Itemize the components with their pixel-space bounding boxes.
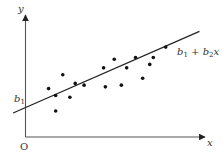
intercept-label-sub: 1 (20, 98, 24, 106)
y-axis-label: y (17, 3, 24, 14)
data-point (125, 66, 129, 70)
data-point (164, 45, 168, 49)
data-point (68, 95, 72, 99)
data-point (112, 57, 116, 61)
line-equation-label: b1 + b2x (177, 46, 220, 59)
data-point (134, 56, 138, 60)
eq-plus: + (188, 46, 203, 57)
data-point (61, 73, 65, 77)
data-points (47, 45, 168, 113)
origin-label: O (20, 141, 28, 152)
data-point (54, 94, 58, 98)
data-point (120, 83, 124, 87)
data-point (104, 85, 108, 89)
regression-line (13, 31, 199, 113)
data-point (148, 63, 152, 67)
eq-x: x (214, 46, 220, 57)
data-point (141, 76, 145, 80)
data-point (73, 82, 77, 86)
data-point (54, 109, 58, 113)
data-point (82, 83, 86, 87)
x-axis-label: x (207, 137, 213, 148)
data-point (102, 66, 106, 70)
regression-diagram: y x O b1 b1 + b2x (0, 0, 222, 156)
intercept-label: b1 (14, 93, 25, 106)
data-point (152, 56, 156, 60)
data-point (47, 87, 51, 91)
